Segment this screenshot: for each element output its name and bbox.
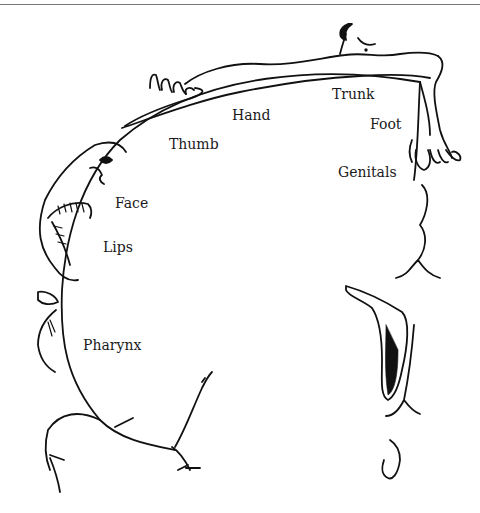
label-trunk: Trunk xyxy=(332,87,375,101)
label-hand: Hand xyxy=(232,108,271,122)
sulci-drawing xyxy=(46,372,212,492)
label-lips: Lips xyxy=(103,240,133,254)
label-genitals: Genitals xyxy=(338,165,397,179)
ventricle-drawing xyxy=(346,286,420,478)
label-pharynx: Pharynx xyxy=(83,338,141,352)
label-foot: Foot xyxy=(370,117,401,131)
label-face: Face xyxy=(115,196,148,210)
face-drawing xyxy=(40,142,126,280)
homunculus-drawing xyxy=(0,0,480,513)
label-thumb: Thumb xyxy=(169,137,219,151)
pharynx-drawing xyxy=(38,292,58,372)
